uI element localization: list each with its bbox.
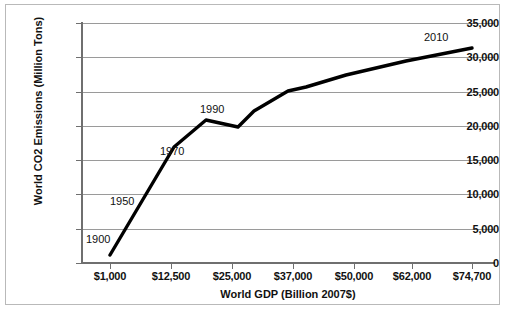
- point-label-1950: 1950: [110, 195, 134, 207]
- gridline-10000: [82, 194, 494, 195]
- y-tick-mark-30000: [76, 57, 82, 58]
- y-tick-label-5000: 5,000: [437, 224, 499, 235]
- gridline-5000: [82, 229, 494, 230]
- y-axis-title: World CO2 Emissions (Million Tons): [32, 0, 44, 236]
- gridline-15000: [82, 160, 494, 161]
- y-tick-label-0: 0: [437, 258, 499, 269]
- x-tick-mark-62000: [412, 264, 413, 269]
- y-tick-mark-5000: [76, 229, 82, 230]
- y-tick-label-15000: 15,000: [437, 155, 499, 166]
- y-tick-mark-20000: [76, 126, 82, 127]
- x-tick-mark-25000: [232, 264, 233, 269]
- y-tick-mark-25000: [76, 92, 82, 93]
- y-tick-mark-10000: [76, 194, 82, 195]
- point-label-2010: 2010: [424, 31, 448, 43]
- x-tick-mark-12500: [171, 264, 172, 269]
- gridline-30000: [82, 57, 494, 58]
- point-label-1970: 1970: [160, 145, 184, 157]
- x-tick-label-74700: $74,700: [432, 270, 507, 282]
- y-tick-label-35000: 35,000: [437, 18, 499, 29]
- gridline-35000: [82, 23, 494, 24]
- plot-area: [82, 23, 494, 263]
- y-tick-mark-35000: [76, 23, 82, 24]
- x-axis-title: World GDP (Billion 2007$): [82, 288, 494, 300]
- x-tick-mark-74700: [472, 264, 473, 269]
- x-axis-line: [81, 262, 495, 264]
- x-tick-mark-1000: [110, 264, 111, 269]
- x-tick-mark-50000: [354, 264, 355, 269]
- y-tick-mark-15000: [76, 160, 82, 161]
- point-label-1900: 1900: [86, 233, 110, 245]
- y-tick-label-25000: 25,000: [437, 87, 499, 98]
- y-tick-label-10000: 10,000: [437, 189, 499, 200]
- chart-frame: 35,000 30,000 25,000 20,000 15,000 10,00…: [5, 4, 500, 305]
- x-tick-mark-37000: [293, 264, 294, 269]
- y-tick-mark-0: [76, 263, 82, 264]
- y-axis-line: [81, 22, 83, 264]
- point-label-1990: 1990: [200, 103, 224, 115]
- gridline-25000: [82, 92, 494, 93]
- y-tick-label-20000: 20,000: [437, 121, 499, 132]
- y-tick-label-30000: 30,000: [437, 52, 499, 63]
- gridline-20000: [82, 126, 494, 127]
